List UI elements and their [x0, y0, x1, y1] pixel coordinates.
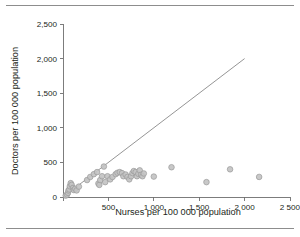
scatter-plot: 05001,0001,5002,0002,5005001 0001 5002 0…	[0, 8, 300, 224]
axis-tick-labels-group: 05001,0001,5002,0002,5005001 0001 5002 0…	[37, 20, 300, 212]
data-point	[94, 169, 100, 175]
data-point	[169, 164, 175, 170]
x-axis-tick-label: 2 500	[280, 203, 300, 212]
y-axis-tick-label: 0	[52, 193, 57, 202]
scatter-plot-canvas: 05001,0001,5002,0002,5005001 0001 5002 0…	[0, 8, 300, 224]
data-point	[151, 174, 157, 180]
y-axis-tick-label: 500	[43, 158, 57, 167]
top-divider-rule	[6, 5, 294, 6]
data-points-group	[63, 164, 262, 199]
bottom-divider-rule	[6, 228, 294, 229]
data-point	[76, 184, 82, 190]
figure-page: 05001,0001,5002,0002,5005001 0001 5002 0…	[0, 0, 300, 237]
y-axis-tick-label: 1,000	[37, 124, 58, 133]
data-point	[204, 179, 210, 185]
x-axis-title: Nurses per 100 000 population	[115, 207, 241, 217]
y-axis-tick-label: 1,500	[37, 89, 58, 98]
y-axis-tick-label: 2,000	[37, 55, 58, 64]
y-axis-title: Doctors per 100 000 population	[10, 47, 20, 175]
data-point	[256, 174, 262, 180]
y-axis-tick-label: 2,500	[37, 20, 58, 29]
data-point	[227, 167, 233, 173]
x-axis-tick-label: 500	[102, 203, 116, 212]
data-point	[101, 164, 107, 170]
data-point	[99, 173, 105, 179]
data-point	[141, 171, 147, 177]
